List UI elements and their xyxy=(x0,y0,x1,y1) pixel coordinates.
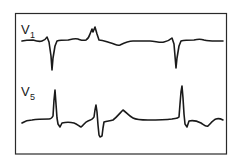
figure-frame xyxy=(16,14,227,155)
lead-label-v5: V 5 xyxy=(21,84,35,102)
lead-label-v1-main: V xyxy=(21,22,30,37)
lead-label-v1-sub: 1 xyxy=(30,30,35,40)
trace-v1 xyxy=(22,27,223,70)
lead-label-v1: V 1 xyxy=(21,22,35,40)
lead-label-v5-sub: 5 xyxy=(30,92,35,102)
ecg-svg: V 1 V 5 xyxy=(0,0,247,162)
trace-v5 xyxy=(22,86,223,137)
lead-label-v5-main: V xyxy=(21,84,30,99)
ecg-figure: V 1 V 5 xyxy=(0,0,247,162)
